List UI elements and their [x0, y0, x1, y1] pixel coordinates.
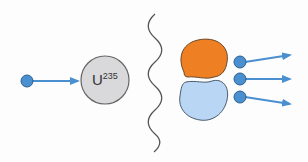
neutron-arrow-3: [245, 97, 290, 104]
fission-fragment-blue: [180, 80, 228, 120]
emitted-neutrons: [234, 55, 290, 104]
wavy-separator: [148, 14, 162, 152]
nucleus-label: U235: [92, 72, 118, 87]
neutron-icon: [234, 91, 246, 103]
neutron-icon: [21, 75, 33, 87]
incoming-neutron: [21, 75, 78, 87]
mass-number: 235: [103, 71, 118, 81]
neutron-icon: [234, 73, 246, 85]
neutron-icon: [234, 56, 246, 68]
fission-fragment-orange: [181, 39, 227, 78]
neutron-arrow-1: [245, 55, 290, 62]
fission-diagram: [0, 0, 308, 162]
element-symbol: U: [92, 71, 103, 88]
